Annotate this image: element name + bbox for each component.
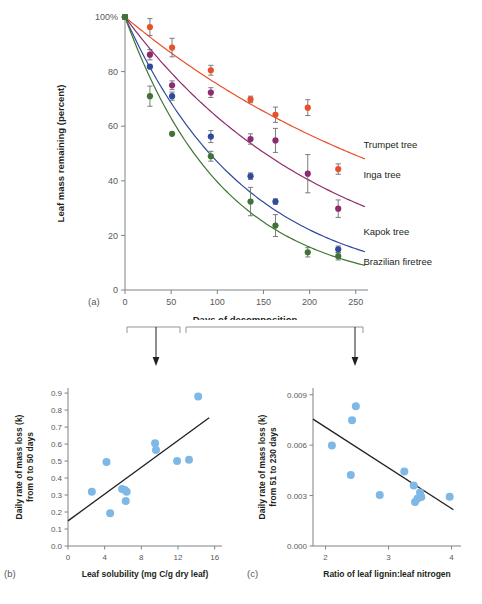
panel-a-data-point xyxy=(247,173,253,179)
panel_b-y-axis-title-line1: Daily rate of mass loss (k) xyxy=(14,414,24,519)
panel_b-y-tick-label: 0.0 xyxy=(51,542,63,551)
panel-a-y-tick-label: 20 xyxy=(108,231,118,241)
arrow-head-to-panel-c xyxy=(352,357,359,366)
panel-a-data-point xyxy=(335,206,341,212)
panel-c-chart: 0.0000.0030.0060.009234Ratio of leaf lig… xyxy=(241,374,482,604)
panel-a-data-point xyxy=(208,90,214,96)
panel-a-y-tick-label: 40 xyxy=(108,176,118,186)
panel-a-y-tick-label: 0 xyxy=(113,285,118,295)
panel_c-data-point xyxy=(446,493,454,501)
panel-a-data-point xyxy=(305,249,311,255)
panel-a-data-point xyxy=(147,52,153,58)
panel_c-data-point xyxy=(400,468,408,476)
panel_b-data-point xyxy=(151,439,159,447)
panel_b-data-point xyxy=(194,392,202,400)
panel_b-data-point xyxy=(106,509,114,517)
panel_c-y-axis-title-line1: Daily rate of mass loss (k) xyxy=(257,414,267,519)
panel_b-data-point xyxy=(123,488,131,496)
panel-a-data-point xyxy=(169,131,175,137)
panel-a-data-point xyxy=(147,64,153,70)
panel-a-x-tick-label: 200 xyxy=(302,297,317,307)
panel-a-x-tick-label: 150 xyxy=(256,297,271,307)
panel_b-x-tick-label: 8 xyxy=(139,553,144,562)
panel_b-data-point xyxy=(122,497,130,505)
panel_c-x-tick-label: 4 xyxy=(449,553,454,562)
arrow-head-to-panel-b xyxy=(153,357,160,366)
panel_b-label: (b) xyxy=(4,568,16,579)
panel_c-x-tick-label: 3 xyxy=(386,553,391,562)
panel_b-y-tick-label: 0.8 xyxy=(51,406,63,415)
panel-a-fit-curve-3 xyxy=(125,17,365,265)
panel-a-fit-curve-0 xyxy=(125,17,365,159)
panel_b-y-tick-label: 0.7 xyxy=(51,423,63,432)
panel-a-y-tick-label: 100% xyxy=(95,12,118,22)
panel-a-label: (a) xyxy=(88,296,100,307)
panel_b-x-tick-label: 4 xyxy=(102,553,107,562)
panel-a-data-point xyxy=(247,96,253,102)
panel_b-y-axis-title-line2: from 0 to 50 days xyxy=(25,432,35,502)
panel-a-data-point xyxy=(272,112,278,118)
panel_b-x-axis-title: Leaf solubility (mg C/g dry leaf) xyxy=(82,569,209,579)
panel-a-data-point xyxy=(272,137,278,143)
bracket-51-to-230-days xyxy=(186,327,363,333)
panel-a-data-point xyxy=(247,198,253,204)
panel-a-data-point xyxy=(272,222,278,228)
panel_b-x-tick-label: 12 xyxy=(174,553,183,562)
panel_c-data-point xyxy=(328,441,336,449)
panel_b-data-point xyxy=(173,457,181,465)
panel-a-data-point xyxy=(305,171,311,177)
panel-a-data-point xyxy=(335,253,341,259)
bracket-0-to-50-days xyxy=(127,327,180,333)
panel-a-data-point xyxy=(335,246,341,252)
panel_c-data-point xyxy=(348,416,356,424)
panel-a-fit-curve-2 xyxy=(125,17,365,252)
panel_b-x-tick-label: 0 xyxy=(66,553,71,562)
panel-a-x-tick-label: 0 xyxy=(122,297,127,307)
panel-a-series-label-1: Inga tree xyxy=(363,169,401,180)
figure-leaf-decomposition: 020406080100%050100150200250Days of deco… xyxy=(0,0,482,604)
panel-a-data-point xyxy=(247,136,253,142)
panel_b-data-point xyxy=(152,446,160,454)
panel_c-x-axis-title: Ratio of leaf lignin:leaf nitrogen xyxy=(323,569,451,579)
panel_b-y-tick-label: 0.5 xyxy=(51,457,63,466)
panel-a-data-point xyxy=(208,67,214,73)
panel-a-y-tick-label: 80 xyxy=(108,67,118,77)
panel_b-regression-line xyxy=(68,418,209,521)
panel_c-data-point xyxy=(417,493,425,501)
panel_b-y-tick-label: 0.1 xyxy=(51,525,63,534)
panel-a-data-point xyxy=(208,153,214,159)
panel_c-y-tick-label: 0.000 xyxy=(287,542,308,551)
panel_c-data-point xyxy=(347,471,355,479)
panel-a-data-point xyxy=(147,24,153,30)
panel-a-chart: 020406080100%050100150200250Days of deco… xyxy=(0,0,482,320)
panel-a-data-point xyxy=(169,82,175,88)
panel-a-y-axis-title: Leaf mass remaining (percent) xyxy=(55,85,66,223)
panel-a-data-point xyxy=(208,133,214,139)
panel_c-y-tick-label: 0.009 xyxy=(287,391,308,400)
panel_c-y-tick-label: 0.003 xyxy=(287,492,308,501)
panel_c-data-point xyxy=(410,481,418,489)
panel-a-x-tick-label: 50 xyxy=(166,297,176,307)
panel-a-data-point xyxy=(169,44,175,50)
panel-b-chart: 0.00.10.20.30.40.50.60.70.80.90481216Lea… xyxy=(0,374,241,604)
panel_b-y-tick-label: 0.2 xyxy=(51,508,63,517)
panel_b-data-point xyxy=(103,458,111,466)
panel-a-data-point xyxy=(169,93,175,99)
panel-a-x-axis-title: Days of decomposition xyxy=(193,314,298,320)
panel-a-data-point xyxy=(305,105,311,111)
panel_b-data-point xyxy=(185,456,193,464)
panel_c-label: (c) xyxy=(247,568,258,579)
panel-a-series-label-3: Brazilian firetree xyxy=(363,256,432,267)
panel_c-y-axis-title-line2: from 51 to 230 days xyxy=(268,427,278,507)
panel-a-data-point xyxy=(335,166,341,172)
panel-a-data-point xyxy=(147,93,153,99)
panel_c-data-point xyxy=(352,402,360,410)
panel_c-y-tick-label: 0.006 xyxy=(287,441,308,450)
panel_b-y-tick-label: 0.4 xyxy=(51,474,63,483)
panel_c-x-tick-label: 2 xyxy=(323,553,328,562)
panel-a-series-label-0: Trumpet tree xyxy=(363,139,417,150)
panel-a-x-tick-label: 250 xyxy=(348,297,363,307)
panel-a-y-tick-label: 60 xyxy=(108,121,118,131)
bracket-connector-group xyxy=(0,322,482,382)
panel_b-y-tick-label: 0.3 xyxy=(51,491,63,500)
